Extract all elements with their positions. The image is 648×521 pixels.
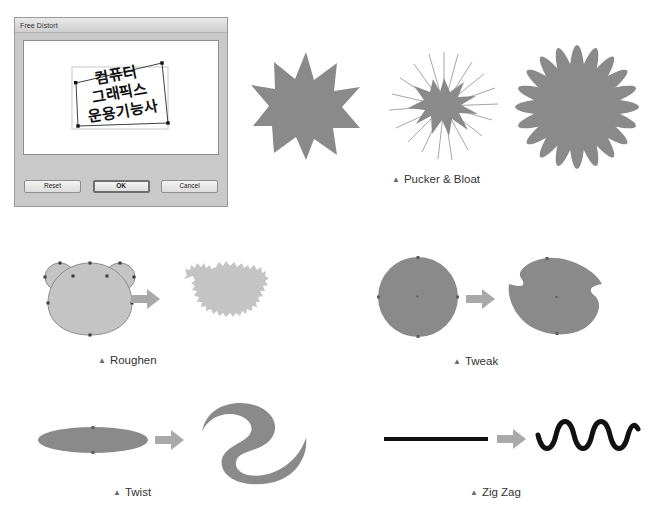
ok-button[interactable]: OK	[93, 180, 150, 193]
caption-tweak: ▲ Tweak	[453, 356, 498, 368]
figure-tweak-before	[377, 256, 459, 338]
figure-twist-before	[38, 425, 148, 455]
bloat-flower-shape	[518, 48, 636, 166]
circle-shape	[377, 256, 459, 338]
caption-twist: ▲ Twist	[113, 487, 151, 499]
wavy-line-shape	[536, 423, 640, 455]
dialog-button-row: Reset OK Cancel	[24, 180, 218, 193]
right-arrow-icon	[497, 428, 527, 450]
star-12-point-shape	[251, 50, 361, 162]
reset-button[interactable]: Reset	[24, 180, 81, 193]
right-arrow-icon	[131, 288, 161, 310]
right-arrow-icon	[466, 288, 496, 310]
pucker-spikes-shape	[388, 50, 500, 162]
figure-zigzag-after	[536, 423, 640, 455]
caption-text: Pucker & Bloat	[404, 174, 480, 186]
ellipse-shape	[38, 425, 148, 455]
caption-pucker-bloat: ▲ Pucker & Bloat	[392, 174, 480, 186]
caption-marker-icon: ▲	[98, 357, 106, 365]
dialog-titlebar[interactable]: Free Distort	[15, 18, 227, 33]
figure-roughen-before	[42, 255, 138, 340]
distort-artwork: 컴퓨터 그래픽스 운용기능사	[24, 41, 218, 154]
bear-head-roughened-shape	[178, 255, 274, 340]
caption-text: Zig Zag	[482, 487, 521, 499]
caption-zigzag: ▲ Zig Zag	[470, 487, 521, 499]
arrow-roughen	[131, 288, 161, 310]
caption-roughen: ▲ Roughen	[98, 355, 157, 367]
caption-marker-icon: ▲	[113, 489, 121, 497]
dialog-title: Free Distort	[20, 22, 58, 29]
figure-pucker-spikes	[388, 50, 500, 162]
figure-zigzag-before	[384, 433, 488, 445]
right-arrow-icon	[155, 429, 185, 451]
straight-line-shape	[384, 433, 488, 445]
caption-text: Roughen	[110, 355, 157, 367]
figure-twist-after	[196, 400, 318, 484]
arrow-zigzag	[497, 428, 527, 450]
bear-head-smooth-shape	[42, 255, 138, 340]
distort-preview-canvas[interactable]: 컴퓨터 그래픽스 운용기능사	[23, 40, 219, 155]
caption-marker-icon: ▲	[453, 358, 461, 366]
arrow-tweak	[466, 288, 496, 310]
figure-star-12-point	[251, 50, 361, 162]
figure-bloat-flower	[518, 48, 636, 166]
tweaked-blob-shape	[507, 256, 607, 338]
caption-marker-icon: ▲	[470, 489, 478, 497]
twisted-s-shape-shape	[196, 400, 318, 484]
caption-marker-icon: ▲	[392, 176, 400, 184]
figure-roughen-after	[178, 255, 274, 340]
free-distort-dialog[interactable]: Free Distort 컴퓨터 그래픽스 운용기능사	[14, 17, 228, 207]
caption-text: Tweak	[465, 356, 498, 368]
dialog-body: 컴퓨터 그래픽스 운용기능사 Reset OK Cancel	[15, 33, 227, 206]
cancel-button[interactable]: Cancel	[161, 180, 218, 193]
caption-text: Twist	[125, 487, 151, 499]
figure-tweak-after	[507, 256, 607, 338]
arrow-twist	[155, 429, 185, 451]
